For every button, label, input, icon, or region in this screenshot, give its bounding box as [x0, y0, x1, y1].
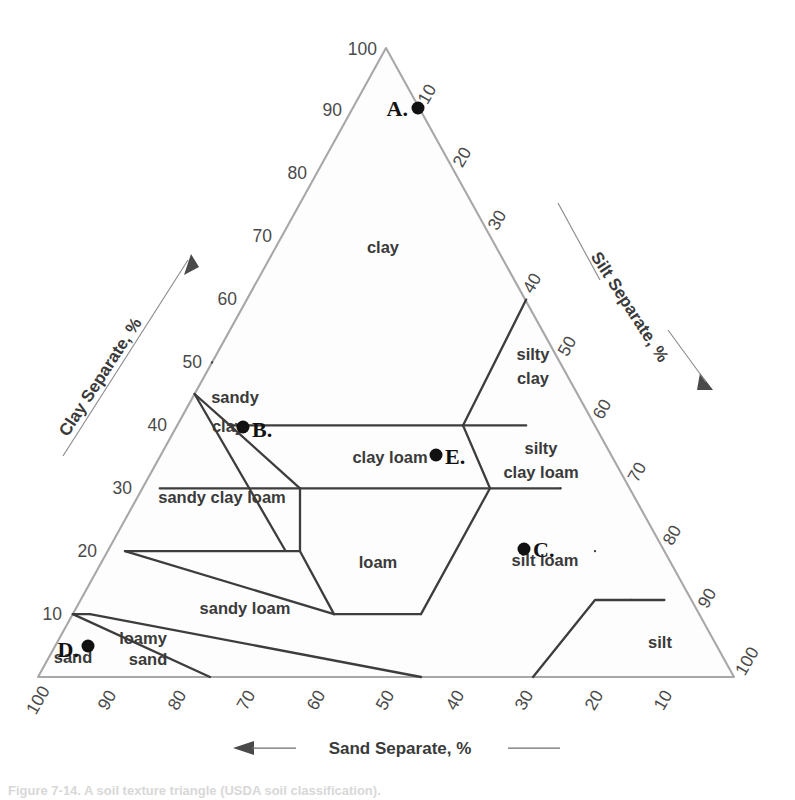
label-silty-clay-loam-2: clay loam [503, 463, 578, 481]
point-c-label: C. [533, 537, 554, 562]
label-sandy-clay-loam: sandy clay loam [158, 488, 285, 506]
clay-tick-60: 60 [218, 289, 238, 309]
point-e-dot[interactable] [430, 449, 443, 462]
clay-tick-100: 100 [348, 39, 377, 59]
point-a-dot[interactable] [412, 102, 425, 115]
sand-tick-80: 80 [163, 686, 190, 713]
point-b-label: B. [252, 417, 272, 442]
triangle-outline [38, 48, 734, 677]
silt-axis-title: Silt Separate, % [587, 248, 672, 365]
point-b-dot[interactable] [237, 421, 250, 434]
sand-tick-40: 40 [441, 686, 468, 713]
clay-tick-80: 80 [288, 163, 308, 183]
clay-tick-10: 10 [43, 604, 63, 624]
label-clay-loam: clay loam [352, 448, 427, 466]
label-silty-clay-loam-1: silty [524, 439, 558, 457]
silt-tick-50: 50 [553, 332, 580, 359]
silt-tick-90: 90 [693, 584, 720, 611]
silt-tick-80: 80 [658, 521, 685, 548]
sand-tick-30: 30 [510, 686, 537, 713]
clay-tick-40: 40 [148, 415, 168, 435]
silt-tick-60: 60 [588, 395, 615, 422]
point-e-label: E. [445, 444, 465, 469]
sand-axis-ticks: 100 90 80 70 60 50 40 30 20 10 [22, 682, 677, 718]
sand-tick-20: 20 [580, 686, 607, 713]
sand-tick-100: 100 [22, 682, 54, 718]
sand-tick-70: 70 [232, 686, 259, 713]
point-c-dot[interactable] [518, 543, 531, 556]
clay-tick-50: 50 [183, 352, 203, 372]
label-silty-clay-2: clay [517, 369, 550, 387]
sand-axis-arrow-icon [233, 741, 254, 755]
soil-texture-triangle-figure: 10 20 30 40 50 60 70 80 90 100 10 20 30 … [0, 0, 795, 800]
point-a-label: A. [387, 96, 408, 121]
figure-caption: Figure 7-14. A soil texture triangle (US… [8, 783, 708, 800]
point-d-dot[interactable] [82, 640, 95, 653]
sand-tick-10: 10 [649, 686, 676, 713]
label-loamy-sand-2: sand [129, 650, 168, 668]
label-sandy-clay-1: sandy [211, 388, 260, 406]
label-clay: clay [367, 238, 400, 256]
clay-tick-30: 30 [113, 478, 133, 498]
clay-axis-title: Clay Separate, % [55, 314, 146, 439]
clay-axis-leader-line [63, 260, 188, 456]
sand-axis-title-group: Sand Separate, % [233, 739, 560, 758]
sand-tick-90: 90 [93, 686, 120, 713]
sand-tick-50: 50 [371, 686, 398, 713]
label-silty-clay-1: silty [516, 345, 550, 363]
silt-tick-70: 70 [623, 458, 650, 485]
sand-axis-title: Sand Separate, % [329, 739, 472, 758]
clay-tick-20: 20 [78, 541, 98, 561]
point-d-label: D. [58, 637, 79, 662]
clay-tick-70: 70 [253, 226, 273, 246]
triangle-canvas: 10 20 30 40 50 60 70 80 90 100 10 20 30 … [0, 0, 795, 800]
label-loam: loam [359, 553, 398, 571]
label-silt: silt [648, 633, 672, 651]
clay-axis-arrow-icon [184, 254, 199, 275]
silt-axis-leader-line-2 [668, 330, 706, 382]
silt-axis-title-group: Silt Separate, % [558, 203, 713, 390]
label-sandy-loam: sandy loam [200, 599, 291, 617]
silt-tick-100: 100 [731, 643, 763, 679]
clay-tick-90: 90 [323, 100, 343, 120]
label-loamy-sand-1: loamy [119, 629, 168, 647]
sand-tick-60: 60 [302, 686, 329, 713]
